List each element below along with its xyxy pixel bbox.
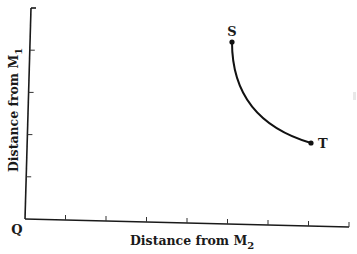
point-t-label: T [318, 136, 328, 151]
point-t [308, 140, 313, 145]
y-axis-label-subscript: 1 [13, 48, 24, 55]
point-s [229, 39, 234, 44]
x-axis-label-subscript: 2 [247, 240, 254, 251]
curve-s-to-t [232, 42, 311, 143]
x-axis-label: Distance from M2 [130, 233, 254, 251]
point-s-label: S [227, 24, 236, 39]
y-axis [25, 8, 31, 219]
diagram: S T Q Distance from M2 Distance from M1 [0, 0, 357, 254]
x-axis-label-text: Distance from M [130, 233, 247, 248]
y-axis-label: Distance from M1 [6, 48, 24, 172]
y-axis-label-text: Distance from M [6, 55, 21, 172]
origin-label: Q [11, 222, 22, 237]
scan-smudge [353, 92, 356, 100]
